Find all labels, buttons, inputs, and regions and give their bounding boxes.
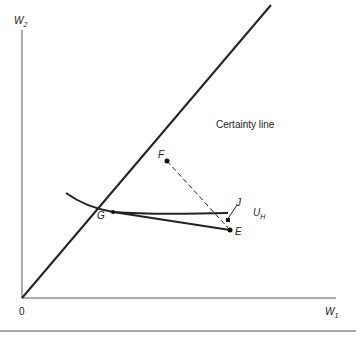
point-f: [165, 159, 170, 164]
label-f: F: [158, 149, 165, 160]
origin-label: 0: [19, 306, 25, 317]
indifference-curve-uh: [66, 193, 228, 214]
y-axis-label: W2: [14, 15, 27, 28]
label-e: E: [235, 226, 242, 237]
diagram-canvas: W2 W1 0 Certainty line F G J E UH: [0, 0, 356, 338]
label-j: J: [235, 197, 242, 208]
label-uh: UH: [253, 207, 266, 220]
dashed-line-f-e: [167, 161, 230, 230]
certainty-line: [22, 5, 271, 298]
point-j-marker: [226, 218, 230, 222]
x-axis-label: W1: [325, 306, 338, 319]
point-e: [228, 228, 233, 233]
label-g: G: [97, 210, 105, 221]
certainty-line-label: Certainty line: [216, 119, 275, 130]
point-g: [111, 210, 115, 214]
